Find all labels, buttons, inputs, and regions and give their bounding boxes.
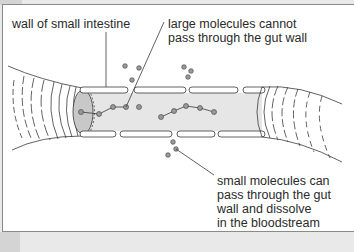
label-small-line-1: small molecules can [217,174,331,188]
upper-gut-wall [80,87,265,93]
small-molecule-inside [137,105,142,110]
leader-line-small-molecules [176,149,214,175]
lower-gut-wall [80,131,265,137]
label-wall-of-small-intestine: wall of small intestine [12,17,130,31]
label-large-line-2: pass through the gut wall [168,31,307,45]
label-large-molecules: large molecules cannot pass through the … [168,17,307,45]
label-small-molecules: small molecules can pass through the gut… [217,174,331,230]
small-molecules-outside-bottom [166,140,179,158]
label-small-line-4: in the bloodstream [217,216,331,230]
left-intestine-section [8,66,82,150]
label-large-line-1: large molecules cannot [168,17,307,31]
label-small-line-2: pass through the gut [217,188,331,202]
right-intestine-section [257,86,342,162]
label-small-line-3: wall and dissolve [217,202,331,216]
small-molecules-outside-top [123,64,194,83]
